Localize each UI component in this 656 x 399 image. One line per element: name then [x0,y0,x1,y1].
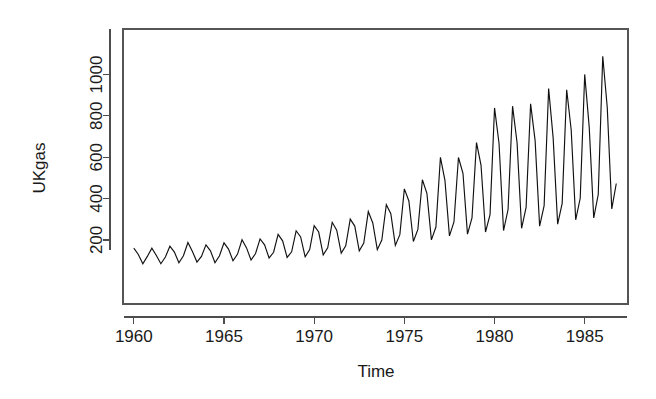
y-tick-label: 200 [88,226,107,254]
x-tick-label: 1960 [115,327,153,346]
x-tick-label: 1965 [205,327,243,346]
x-tick-label: 1975 [385,327,423,346]
y-axis-title: UKgas [30,142,49,193]
y-tick-label: 800 [88,102,107,130]
y-tick-label: 400 [88,184,107,212]
x-tick-label: 1970 [295,327,333,346]
x-tick-label: 1985 [566,327,604,346]
y-tick-label: 600 [88,143,107,171]
ukgas-line-chart: 196019651970197519801985 200400600800100… [0,0,656,399]
chart-figure: 196019651970197519801985 200400600800100… [0,0,656,399]
y-tick-label: 1000 [88,56,107,94]
x-axis-title: Time [357,362,394,381]
x-tick-label: 1980 [476,327,514,346]
